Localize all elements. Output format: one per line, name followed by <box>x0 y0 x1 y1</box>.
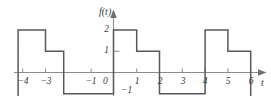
x-tick-label-minus1: −1 <box>85 77 96 87</box>
x-tick-label-5: 5 <box>226 77 231 87</box>
x-axis <box>14 69 267 76</box>
origin-label: 0 <box>103 77 108 87</box>
y-axis-label: f(t) <box>99 7 111 17</box>
x-tick-label-6: 6 <box>249 77 254 87</box>
x-tick-label-minus4: −4 <box>17 77 28 87</box>
x-axis-label: t <box>261 78 264 88</box>
x-tick-label-1: 1 <box>135 77 140 87</box>
x-tick-label-2: 2 <box>158 77 163 87</box>
x-axis-arrowhead <box>258 69 267 76</box>
x-axis-ticks <box>23 69 251 73</box>
y-tick-label-minus1: −1 <box>121 86 132 96</box>
x-tick-label-4: 4 <box>203 77 208 87</box>
plot-canvas <box>0 0 271 110</box>
y-tick-label-1: 1 <box>100 46 109 56</box>
x-tick-label-minus3: −3 <box>40 77 51 87</box>
y-tick-label-2: 2 <box>100 25 109 35</box>
figure-container: f(t) t 2 1 −1 0 −4 −3 −1 1 2 3 4 5 6 <box>0 0 271 110</box>
x-tick-label-3: 3 <box>181 77 186 87</box>
